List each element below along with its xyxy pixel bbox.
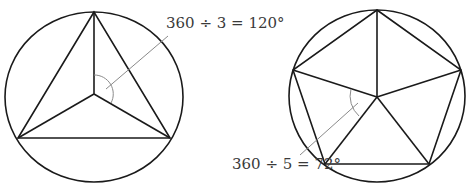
radius-bottom-right <box>377 97 429 164</box>
label-pentagon-angle: 360 ÷ 5 = 72° <box>232 155 341 173</box>
radius-bottom-left <box>325 97 377 164</box>
radius-left <box>293 70 377 97</box>
label-triangle-angle: 360 ÷ 3 = 120° <box>166 14 285 32</box>
radius-right <box>94 94 170 138</box>
radius-right <box>377 70 461 97</box>
radius-left <box>18 94 94 138</box>
triangle-figure <box>5 12 183 182</box>
angle-arc-72 <box>350 89 359 116</box>
leader-line-left <box>106 36 168 89</box>
leader-line-right <box>300 103 358 155</box>
